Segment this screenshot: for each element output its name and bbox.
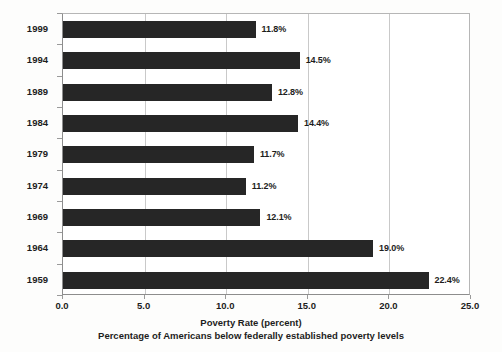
bar-value-label: 22.4% [435,271,460,290]
y-axis-label-1964: 1964 [27,232,48,263]
bar-value-label: 14.4% [304,114,329,133]
bar-value-label: 11.2% [252,177,277,196]
bar-row: 11.2% [63,171,469,202]
x-axis-tick [388,295,389,299]
bar [63,115,298,132]
x-axis-tick [144,295,145,299]
bar [63,52,300,69]
x-axis-label-0.0: 0.0 [55,300,68,311]
bar-value-label: 12.8% [278,83,303,102]
bar-value-label: 19.0% [379,239,404,258]
y-axis-label-1989: 1989 [27,76,48,107]
poverty-rate-bar-chart: 199919941989198419791974196919641959 11.… [0,0,502,352]
bar [63,21,256,38]
bar [63,240,373,257]
y-axis-label-1974: 1974 [27,170,48,201]
plot-area: 11.8%14.5%12.8%14.4%11.7%11.2%12.1%19.0%… [62,13,470,295]
bar-row: 11.8% [63,14,469,45]
y-axis-label-1994: 1994 [27,44,48,75]
x-axis-tick [470,295,471,299]
x-axis-tick [307,295,308,299]
x-axis-label-25.0: 25.0 [461,300,480,311]
bar [63,178,246,195]
bars-layer: 11.8%14.5%12.8%14.4%11.7%11.2%12.1%19.0%… [63,14,469,294]
bar-value-label: 12.1% [266,208,291,227]
bar-value-label: 11.7% [260,145,285,164]
y-axis-category-labels: 199919941989198419791974196919641959 [0,13,56,295]
x-axis-value-labels: 0.05.010.015.020.025.0 [0,300,502,316]
y-axis-label-1979: 1979 [27,138,48,169]
x-axis-label-10.0: 10.0 [216,300,235,311]
bar [63,272,429,289]
bar-row: 19.0% [63,233,469,264]
x-axis-subtitle: Percentage of Americans below federally … [0,330,502,341]
y-axis-label-1969: 1969 [27,201,48,232]
y-axis-label-1984: 1984 [27,107,48,138]
bar-row: 12.8% [63,77,469,108]
x-axis-label-20.0: 20.0 [379,300,398,311]
x-axis-label-5.0: 5.0 [137,300,150,311]
bar [63,209,260,226]
bar [63,146,254,163]
bar-row: 12.1% [63,202,469,233]
y-axis-label-1959: 1959 [27,264,48,295]
bar-row: 14.4% [63,108,469,139]
bar-value-label: 14.5% [306,51,331,70]
x-axis-tick [225,295,226,299]
y-axis-label-1999: 1999 [27,13,48,44]
x-axis-label-15.0: 15.0 [298,300,317,311]
bar-row: 11.7% [63,139,469,170]
bar-row: 22.4% [63,265,469,296]
x-axis-tick [62,295,63,299]
x-axis-title: Poverty Rate (percent) [0,317,502,328]
bar-value-label: 11.8% [262,20,287,39]
bar [63,84,272,101]
bar-row: 14.5% [63,45,469,76]
